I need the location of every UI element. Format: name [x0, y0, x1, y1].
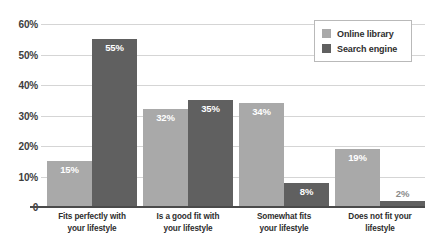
bar-value-label: 15%	[47, 164, 92, 175]
y-tick-40: 40%	[2, 80, 38, 91]
bar-online-library-3[interactable]: 34%	[239, 103, 284, 207]
category-label-line1: Is a good fit with	[143, 211, 233, 223]
bar-online-library-2[interactable]: 32%	[143, 109, 188, 207]
legend-item-online-library[interactable]: Online library	[322, 27, 404, 40]
x-axis-labels: Fits perfectly with your lifestyle Is a …	[41, 211, 425, 250]
bar-online-library-1[interactable]: 15%	[47, 161, 92, 207]
y-tick-30: 30%	[2, 110, 38, 121]
bar-group-2: 32% 35%	[143, 24, 233, 207]
category-label-1: Fits perfectly with your lifestyle	[47, 211, 137, 234]
legend-swatch-icon	[322, 29, 331, 38]
legend-label: Online library	[337, 29, 394, 39]
y-tick-20: 20%	[2, 141, 38, 152]
category-label-3: Somewhat fits your lifestyle	[239, 211, 329, 234]
category-label-line2: your lifestyle	[47, 223, 137, 235]
bar-group-1: 15% 55%	[47, 24, 137, 207]
bar-value-label: 34%	[239, 106, 284, 117]
bar-value-label: 35%	[188, 103, 233, 114]
chart-legend: Online library Search engine	[314, 20, 412, 62]
bar-value-label: 8%	[284, 186, 329, 197]
category-label-line2: your lifestyle	[239, 223, 329, 235]
y-axis: 60% 50% 40% 30% 20% 10% 0	[0, 0, 38, 250]
legend-item-search-engine[interactable]: Search engine	[322, 42, 404, 55]
bar-search-engine-3[interactable]: 8%	[284, 183, 329, 207]
category-label-4: Does not fit your lifestyle	[335, 211, 425, 234]
category-label-line2: your lifestyle	[143, 223, 233, 235]
legend-label: Search engine	[337, 44, 397, 54]
bar-online-library-4[interactable]: 19%	[335, 149, 380, 207]
y-tick-60: 60%	[2, 19, 38, 30]
category-label-line1: Somewhat fits	[239, 211, 329, 223]
x-axis-line	[30, 206, 425, 208]
y-tick-10: 10%	[2, 171, 38, 182]
category-label-line1: Fits perfectly with	[47, 211, 137, 223]
legend-swatch-icon	[322, 44, 331, 53]
bar-search-engine-1[interactable]: 55%	[92, 39, 137, 207]
bar-value-label: 19%	[335, 152, 380, 163]
category-label-line2: lifestyle	[335, 223, 425, 235]
bar-search-engine-2[interactable]: 35%	[188, 100, 233, 207]
y-tick-50: 50%	[2, 49, 38, 60]
bar-value-label: 2%	[380, 188, 425, 199]
category-label-line1: Does not fit your	[335, 211, 425, 223]
bar-value-label: 55%	[92, 42, 137, 53]
bar-chart: 60% 50% 40% 30% 20% 10% 0 15% 55% 32%	[0, 0, 431, 250]
bar-value-label: 32%	[143, 112, 188, 123]
category-label-2: Is a good fit with your lifestyle	[143, 211, 233, 234]
